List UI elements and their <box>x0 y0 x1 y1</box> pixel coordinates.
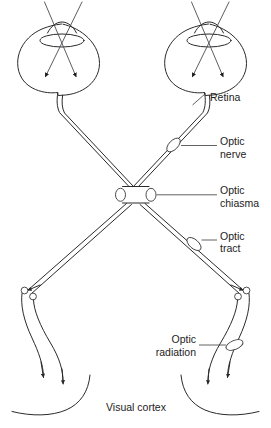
lgn-right-lower <box>235 293 242 300</box>
optic-tract-left <box>28 204 132 295</box>
optic-nerve-marker <box>164 136 182 154</box>
optic-radiation-left-outer <box>22 294 44 376</box>
label-visual-cortex: Visual cortex <box>106 401 167 413</box>
optic-nerve-left-edge-inner <box>62 95 133 186</box>
optic-nerve-right <box>134 93 210 187</box>
optic-tract-left-edge-inner <box>31 205 132 295</box>
optic-radiation-marker <box>224 337 244 352</box>
right-eye-light-rays <box>192 2 230 77</box>
optic-radiation-left-inner <box>34 300 64 383</box>
optic-radiation-left-arrow-inner <box>62 369 63 384</box>
left-eye-lens <box>40 34 84 47</box>
label-optic-tract-line1: Optic <box>220 230 245 242</box>
label-optic-radiation-line1: Optic <box>171 333 196 345</box>
lgn-left-upper <box>21 287 28 294</box>
visual-cortex-arc-left <box>12 375 90 415</box>
chiasma-marker-right <box>146 188 156 201</box>
right-ray-nasal <box>192 2 224 77</box>
optic-tract-marker <box>185 235 204 253</box>
optic-radiation-right-arrow-inner <box>208 369 209 384</box>
left-eye <box>18 22 100 96</box>
leader-retina <box>193 94 206 106</box>
label-optic-nerve-line2: nerve <box>220 148 246 160</box>
label-optic-chiasma-line2: chiasma <box>220 197 259 209</box>
right-ray-temporal <box>193 2 230 77</box>
right-eye <box>165 22 247 96</box>
optic-chiasma <box>116 187 157 204</box>
lgn-left-lower <box>30 293 37 300</box>
optic-nerve-left-edge-outer <box>57 93 128 186</box>
optic-nerve-left <box>57 93 133 187</box>
lgn-right-upper <box>243 287 250 294</box>
right-eye-lens <box>187 34 231 47</box>
label-optic-radiation-line2: radiation <box>156 346 196 358</box>
label-optic-tract-line2: tract <box>220 242 241 254</box>
visual-pathway-diagram: Retina Optic nerve Optic chiasma Optic t… <box>0 0 271 428</box>
visual-cortex-arc-right <box>181 375 259 415</box>
left-eye-light-rays <box>45 2 83 77</box>
left-ray-temporal <box>46 2 83 77</box>
optic-radiation-right-outer <box>228 294 250 376</box>
left-ray-nasal <box>45 2 77 77</box>
optic-radiation-left <box>22 294 64 385</box>
label-optic-nerve-line1: Optic <box>220 135 245 147</box>
optic-nerve-right-edge-inner <box>134 93 205 186</box>
diagram-canvas: Retina Optic nerve Optic chiasma Optic t… <box>0 0 271 428</box>
optic-tract-left-edge-outer <box>28 204 127 291</box>
label-optic-chiasma-line1: Optic <box>220 184 245 196</box>
optic-radiation-right <box>208 294 250 385</box>
chiasma-marker-left <box>116 188 126 201</box>
label-retina: Retina <box>210 91 241 103</box>
